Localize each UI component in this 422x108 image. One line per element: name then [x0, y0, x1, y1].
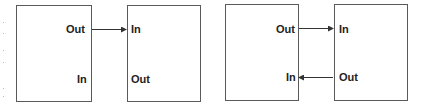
connection-arrows: [0, 0, 422, 108]
